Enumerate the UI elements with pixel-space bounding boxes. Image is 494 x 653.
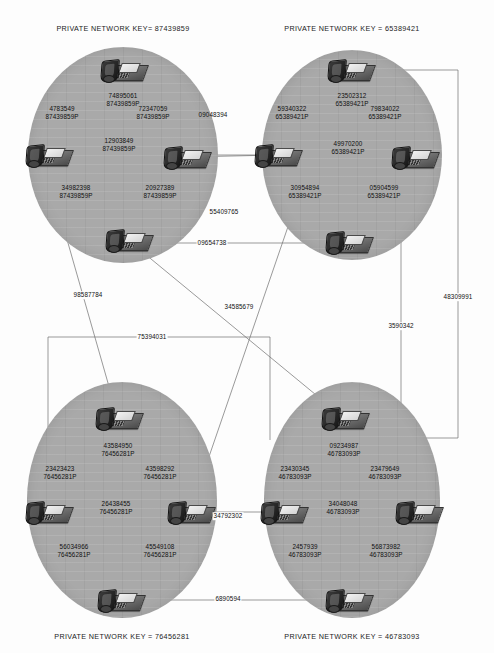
ext-label-br-bot: 56873982 46783093P	[369, 543, 402, 558]
ext-label-br-mid: 34048048 46783093P	[326, 500, 359, 515]
ext-suffix: 65389421P	[368, 113, 401, 121]
ext-number: 34982398	[59, 184, 92, 192]
ext-suffix: 46783093P	[369, 551, 402, 559]
phone-tl-right[interactable]	[164, 145, 208, 169]
phone-screen	[181, 150, 204, 160]
phone-bl-right[interactable]	[168, 500, 212, 524]
phone-stand	[328, 605, 340, 613]
ext-suffix: 65389421P	[275, 113, 308, 121]
ext-suffix: 76456281P	[101, 450, 134, 458]
ext-suffix: 87439859P	[45, 113, 78, 121]
ext-label-bl-bl: 56034966 76456281P	[57, 543, 90, 558]
ext-number: 4783549	[45, 105, 78, 113]
ext-label-tl-bl: 34982398 87439859P	[59, 184, 92, 199]
ext-label-tl-right: 72347059 87439859P	[136, 105, 169, 120]
phone-stand	[328, 247, 340, 255]
ext-suffix: 76456281P	[143, 473, 176, 481]
phone-tl-bottom[interactable]	[106, 228, 150, 252]
ext-number: 23423423	[43, 465, 76, 473]
ext-suffix: 76456281P	[57, 551, 90, 559]
cluster-top-left-key: PRIVATE NETWORK KEY= 87439859	[0, 24, 253, 33]
phone-stand	[28, 160, 40, 168]
trunk-label-75394031: 75394031	[137, 333, 168, 341]
phone-stand	[100, 605, 112, 613]
phone-screen	[272, 148, 295, 158]
ext-label-bl-mid: 26438455 76456281P	[99, 500, 132, 515]
phone-tl-top[interactable]	[101, 58, 145, 82]
phone-tr-left[interactable]	[255, 143, 299, 167]
ext-suffix: 46783093P	[278, 473, 311, 481]
ext-number: 79834022	[368, 105, 401, 113]
trunk-label-09654738: 09654738	[197, 239, 228, 247]
ext-number: 26438455	[99, 500, 132, 508]
phone-screen	[409, 150, 432, 160]
ext-label-br-bl: 2457939 46783093P	[288, 543, 321, 558]
ext-number: 2457939	[288, 543, 321, 551]
cluster-bottom-left-key: PRIVATE NETWORK KEY = 76456281	[0, 632, 252, 641]
phone-stand	[257, 160, 269, 168]
ext-suffix: 46783093P	[288, 551, 321, 559]
ext-number: 23430345	[278, 465, 311, 473]
phone-stand	[166, 162, 178, 170]
phone-screen	[345, 63, 368, 73]
ext-suffix: 87439859P	[143, 192, 176, 200]
ext-number: 43598292	[143, 465, 176, 473]
phone-stand	[394, 162, 406, 170]
ext-number: 20927389	[143, 184, 176, 192]
ext-number: 56034966	[57, 543, 90, 551]
ext-suffix: 76456281P	[43, 473, 76, 481]
ext-label-tl-left: 4783549 87439859P	[45, 105, 78, 120]
ext-number: 49970200	[331, 140, 364, 148]
ext-label-bl-left: 23423423 76456281P	[43, 465, 76, 480]
trunk-label-98587784: 98587784	[73, 291, 104, 299]
phone-br-right[interactable]	[396, 500, 440, 524]
ext-label-bl-top: 43584950 76456281P	[101, 442, 134, 457]
ext-number: 43584950	[101, 442, 134, 450]
trunk-label-55409765: 55409765	[210, 208, 239, 216]
ext-number: 74895061	[106, 92, 139, 100]
ext-suffix: 87439859P	[106, 100, 139, 108]
ext-number: 12903849	[102, 137, 135, 145]
ext-label-br-left: 23430345 46783093P	[278, 465, 311, 480]
ext-label-tr-top: 23502312 65389421P	[335, 92, 368, 107]
phone-screen	[43, 505, 66, 515]
ext-number: 34048048	[326, 500, 359, 508]
trunk-label-09048394: 09048394	[199, 111, 228, 119]
ext-number: 23479649	[368, 465, 401, 473]
phone-screen	[123, 233, 146, 243]
ext-suffix: 65389421P	[288, 192, 321, 200]
trunk-label-6890594: 6890594	[214, 595, 241, 603]
ext-suffix: 87439859P	[59, 192, 92, 200]
phone-stand	[324, 423, 336, 431]
phone-tr-bottom[interactable]	[326, 230, 370, 254]
phone-tr-right[interactable]	[392, 145, 436, 169]
phone-br-left[interactable]	[261, 500, 305, 524]
phone-screen	[118, 63, 141, 73]
trunk-label-48309991: 48309991	[443, 293, 474, 301]
phone-tr-top[interactable]	[328, 58, 372, 82]
phone-screen	[343, 235, 366, 245]
phone-bl-bottom[interactable]	[98, 588, 142, 612]
trunk-label-34792302: 34792302	[213, 512, 244, 520]
phone-screen	[413, 505, 436, 515]
phone-screen	[185, 505, 208, 515]
ext-label-tr-right: 79834022 65389421P	[368, 105, 401, 120]
cluster-top-right-key: PRIVATE NETWORK KEY = 65389421	[222, 24, 482, 33]
phone-bl-left[interactable]	[26, 500, 70, 524]
ext-suffix: 76456281P	[143, 551, 176, 559]
phone-screen	[343, 593, 366, 603]
ext-suffix: 65389421P	[331, 148, 364, 156]
ext-number: 59340322	[275, 105, 308, 113]
ext-label-tl-bot: 20927389 87439859P	[143, 184, 176, 199]
ext-number: 05904599	[367, 184, 400, 192]
ext-suffix: 46783093P	[327, 450, 360, 458]
ext-label-tr-left: 59340322 65389421P	[275, 105, 308, 120]
phone-bl-top[interactable]	[96, 406, 140, 430]
ext-label-bl-right: 43598292 76456281P	[143, 465, 176, 480]
phone-br-top[interactable]	[322, 406, 366, 430]
ext-number: 30954894	[288, 184, 321, 192]
phone-br-bottom[interactable]	[326, 588, 370, 612]
network-diagram-canvas: PRIVATE NETWORK KEY= 87439859 74895061 8…	[0, 0, 494, 653]
phone-tl-left[interactable]	[26, 143, 70, 167]
phone-stand	[103, 75, 115, 83]
